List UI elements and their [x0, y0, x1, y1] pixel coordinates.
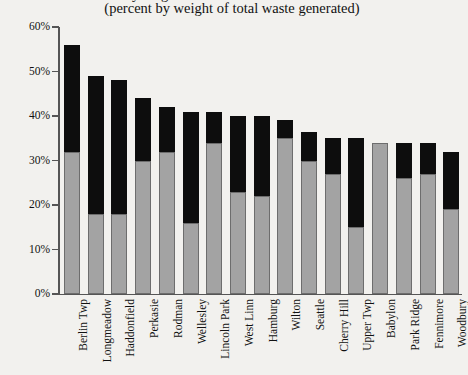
x-axis-tick-label: Park Ridge: [409, 299, 421, 350]
bar-segment-lower: [88, 214, 104, 294]
bar: [206, 112, 222, 294]
bar-segment-lower: [420, 174, 436, 294]
bar: [111, 80, 127, 294]
x-axis-tick-label: West Linn: [243, 299, 255, 346]
bar: [135, 98, 151, 294]
x-axis-tick-label: Woodbury: [456, 299, 468, 347]
x-axis-tick-label: Hamburg: [267, 299, 279, 342]
x-axis-tick-label: Babylon: [385, 299, 397, 338]
x-axis-tick-label: Lincoln Park: [219, 299, 231, 359]
bar-segment-upper: [183, 112, 199, 223]
bar-segment-upper: [111, 80, 127, 214]
x-axis-tick-label: Wellesley: [196, 299, 208, 344]
bar-segment-lower: [372, 143, 388, 294]
bar-segment-lower: [111, 214, 127, 294]
bar: [254, 116, 270, 294]
bar-segment-upper: [64, 45, 80, 152]
bar-segment-upper: [348, 138, 364, 227]
bar-segment-upper: [325, 138, 341, 174]
bar-segment-lower: [64, 152, 80, 294]
x-axis-tick-label: Fennimore: [433, 299, 445, 349]
bar-segment-upper: [443, 152, 459, 210]
bar: [88, 76, 104, 294]
bar-segment-upper: [135, 98, 151, 160]
bar: [443, 152, 459, 294]
bar: [420, 143, 436, 294]
bar: [301, 132, 317, 294]
x-axis-tick-label: Seattle: [314, 299, 326, 330]
bar-segment-upper: [396, 143, 412, 179]
x-axis-tick-label: Rodman: [172, 299, 184, 338]
x-axis-tick-label: Upper Twp: [361, 299, 373, 351]
bar-segment-upper: [420, 143, 436, 174]
bar-segment-lower: [443, 209, 459, 294]
bar: [396, 143, 412, 294]
x-axis-tick-label: Cherry Hill: [338, 299, 350, 352]
bar-segment-upper: [159, 107, 175, 152]
bar: [325, 138, 341, 294]
bar: [372, 143, 388, 294]
bar: [348, 138, 364, 294]
x-axis-tick-label: Haddonfield: [124, 299, 136, 356]
bar-segment-lower: [254, 196, 270, 294]
bar: [159, 107, 175, 294]
bar-segment-lower: [230, 192, 246, 294]
bar-segment-lower: [277, 138, 293, 294]
bar-segment-upper: [301, 132, 317, 161]
x-axis-tick-label: Perkasie: [148, 299, 160, 338]
bar: [277, 120, 293, 294]
x-axis-tick-label: Wilton: [290, 299, 302, 330]
bar-segment-lower: [348, 227, 364, 294]
x-axis-tick-label: Berlin Twp: [77, 299, 89, 351]
bar-segment-upper: [230, 116, 246, 192]
bar-segment-lower: [325, 174, 341, 294]
x-axis-tick-label: Longmeadow: [101, 299, 113, 362]
bar-segment-lower: [396, 178, 412, 294]
bar-segment-lower: [183, 223, 199, 294]
bar: [64, 45, 80, 294]
bar: [230, 116, 246, 294]
bar-segment-lower: [135, 161, 151, 295]
bar: [183, 112, 199, 294]
bar-segment-lower: [206, 143, 222, 294]
bar-segment-upper: [277, 120, 293, 138]
bar-segment-lower: [301, 161, 317, 295]
bar-segment-upper: [88, 76, 104, 214]
bar-segment-upper: [206, 112, 222, 143]
bar-segment-upper: [254, 116, 270, 196]
bar-segment-lower: [159, 152, 175, 294]
